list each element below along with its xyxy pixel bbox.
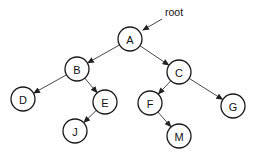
tree-node-C: C	[167, 60, 191, 84]
tree-node-E: E	[93, 90, 117, 114]
edge-F-M	[158, 112, 171, 127]
root-label: root	[165, 6, 183, 18]
node-label: F	[147, 98, 154, 110]
root-arrow	[143, 19, 162, 30]
node-label: D	[19, 94, 27, 106]
edge-A-C	[140, 46, 169, 65]
edge-C-F	[159, 81, 171, 94]
edge-C-G	[189, 78, 222, 99]
node-label: M	[174, 131, 183, 143]
tree-node-D: D	[11, 87, 35, 111]
node-label: E	[101, 97, 108, 109]
tree-node-A: A	[118, 27, 142, 51]
edge-A-B	[88, 45, 120, 63]
edges	[34, 45, 222, 127]
node-label: A	[126, 34, 134, 46]
edge-B-E	[85, 78, 97, 92]
tree-node-J: J	[63, 119, 87, 143]
root-pointer: root	[143, 6, 183, 30]
tree-node-B: B	[65, 57, 89, 81]
tree-node-M: M	[167, 124, 191, 148]
tree-node-F: F	[138, 91, 162, 115]
tree-diagram: root ABCDEFGJM	[0, 0, 253, 154]
edge-B-D	[34, 75, 67, 93]
node-label: J	[72, 126, 78, 138]
node-label: G	[229, 101, 238, 113]
nodes: ABCDEFGJM	[11, 27, 245, 148]
node-label: B	[73, 64, 80, 76]
node-label: C	[175, 67, 183, 79]
tree-node-G: G	[221, 94, 245, 118]
edge-E-J	[84, 110, 96, 122]
